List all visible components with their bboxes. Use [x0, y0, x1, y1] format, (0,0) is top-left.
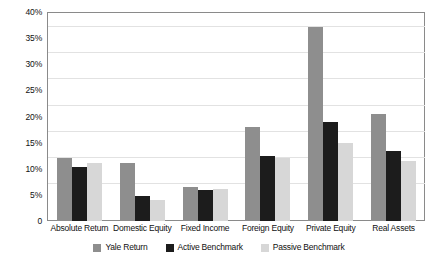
bar: [308, 27, 323, 221]
y-axis-tick-label: 40%: [26, 8, 42, 17]
legend-item[interactable]: Active Benchmark: [166, 243, 243, 252]
y-axis-tick-label: 30%: [26, 60, 42, 69]
y-axis-tick-label: 15%: [26, 138, 42, 147]
legend-swatch-icon: [261, 244, 269, 252]
bar-group: [237, 12, 300, 221]
bar: [72, 167, 87, 221]
bar: [260, 156, 275, 221]
legend-label: Active Benchmark: [178, 243, 243, 252]
y-axis-tick-label: 25%: [26, 86, 42, 95]
legend-label: Passive Benchmark: [273, 243, 345, 252]
bar-group: [111, 12, 174, 221]
y-axis: 40%35%30%25%20%15%10%5%0: [0, 0, 47, 233]
x-axis-category-label: Domestic Equity: [113, 223, 171, 234]
x-axis-category-label: Absolute Return: [50, 223, 108, 234]
bar-group: [174, 12, 237, 221]
bar: [245, 127, 260, 221]
x-axis-category-label: Private Equity: [306, 223, 356, 234]
bar: [371, 114, 386, 221]
bar: [386, 151, 401, 221]
bar-group: [362, 12, 425, 221]
y-axis-tick-label: 5%: [30, 190, 42, 199]
bar: [338, 143, 353, 221]
legend-item[interactable]: Yale Return: [93, 243, 147, 252]
bar: [183, 187, 198, 221]
legend-label: Yale Return: [105, 243, 147, 252]
bar: [213, 189, 228, 221]
bar: [87, 163, 102, 221]
legend-item[interactable]: Passive Benchmark: [261, 243, 345, 252]
bar: [275, 158, 290, 221]
x-axis-category-label: Fixed Income: [181, 223, 230, 234]
bar-chart: 40%35%30%25%20%15%10%5%0 Absolute Return…: [0, 0, 438, 266]
legend-swatch-icon: [93, 244, 101, 252]
legend-swatch-icon: [166, 244, 174, 252]
y-axis-tick-label: 35%: [26, 34, 42, 43]
bar: [120, 163, 135, 221]
x-axis-category-label: Real Assets: [372, 223, 415, 234]
bar: [150, 200, 165, 221]
y-axis-tick-label: 20%: [26, 112, 42, 121]
bar: [57, 158, 72, 221]
bar: [401, 161, 416, 221]
y-axis-tick-label: 10%: [26, 164, 42, 173]
bar: [135, 196, 150, 221]
x-axis-labels: Absolute ReturnDomestic EquityFixed Inco…: [48, 223, 425, 237]
bar: [323, 122, 338, 221]
chart-legend: Yale ReturnActive BenchmarkPassive Bench…: [0, 243, 438, 252]
bar-group: [48, 12, 111, 221]
bar: [198, 190, 213, 221]
x-axis-category-label: Foreign Equity: [242, 223, 294, 234]
bars-layer: [48, 12, 425, 221]
bar-group: [299, 12, 362, 221]
y-axis-tick-label: 0: [37, 217, 42, 226]
